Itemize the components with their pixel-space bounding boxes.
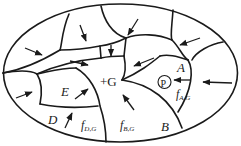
diagram-canvas: +G A B D E P fA,G fB,G fD,G [0,0,241,146]
arrow-icon [180,38,200,45]
region-label-a: A [176,60,185,75]
region-label-e: E [60,84,69,99]
arrow-icon [75,89,88,99]
flux-label-d-g: fD,G [81,118,96,133]
arrow-icon [128,19,138,35]
arrow-icon [65,113,72,128]
arrow-icon [123,95,134,110]
point-p-label: P [161,78,167,89]
arrow-icon [16,92,32,98]
flux-label-b-g: fB,G [120,118,134,133]
arrow-icon [203,82,232,83]
arrow-icon [80,25,86,41]
region-label-g: +G [100,74,117,89]
arrow-icon [25,48,42,55]
region-label-d: D [47,112,58,127]
region-label-b: B [161,119,169,134]
